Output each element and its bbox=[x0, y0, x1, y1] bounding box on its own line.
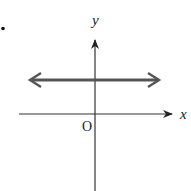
bullet-dot bbox=[1, 27, 5, 31]
coordinate-diagram: y x O bbox=[0, 0, 191, 191]
y-axis-label: y bbox=[90, 12, 99, 28]
origin-label: O bbox=[82, 119, 92, 134]
x-axis-label: x bbox=[179, 106, 187, 122]
